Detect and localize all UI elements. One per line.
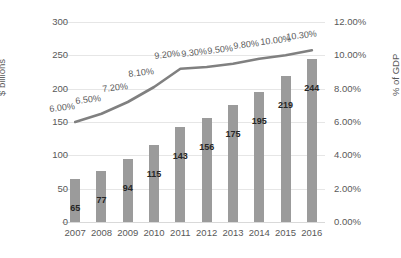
bar-2007 [70, 179, 80, 222]
y-axis-left-tick: 50 [57, 184, 68, 194]
y-axis-right-tick: 2.00% [334, 184, 361, 194]
y-axis-left-tick: 150 [52, 117, 68, 127]
bar-value-label-2010: 115 [141, 170, 167, 179]
y-axis-right-tick: 12.00% [334, 17, 366, 27]
bar-2015 [281, 76, 291, 222]
y-axis-right-tick: 10.00% [334, 50, 366, 60]
axis-baseline [62, 222, 325, 223]
bar-2011 [175, 127, 185, 222]
bar-value-label-2007: 65 [62, 204, 88, 213]
x-axis-tick-2012: 2012 [194, 228, 220, 238]
x-axis-tick-2014: 2014 [246, 228, 272, 238]
bar-2012 [202, 118, 212, 222]
x-axis-tick-2016: 2016 [299, 228, 325, 238]
bar-value-label-2013: 175 [220, 130, 246, 139]
gridline [62, 22, 325, 23]
y-axis-left-tick: 200 [52, 84, 68, 94]
y-axis-left-tick: 250 [52, 50, 68, 60]
x-axis-tick-2013: 2013 [220, 228, 246, 238]
bar-value-label-2011: 143 [167, 152, 193, 161]
x-axis-tick-2010: 2010 [141, 228, 167, 238]
y-axis-right-title: % of GDP [390, 54, 401, 96]
bar-value-label-2012: 156 [194, 143, 220, 152]
y-axis-right-tick: 0.00% [334, 217, 361, 227]
bar-2013 [228, 105, 238, 222]
bar-2010 [149, 145, 159, 222]
x-axis-tick-2009: 2009 [115, 228, 141, 238]
y-axis-left-title: $ billions [0, 59, 7, 96]
x-axis-tick-2007: 2007 [62, 228, 88, 238]
x-axis-tick-2008: 2008 [88, 228, 114, 238]
bar-value-label-2015: 219 [272, 101, 298, 110]
bar-2014 [254, 92, 264, 222]
y-axis-right-tick: 8.00% [334, 84, 361, 94]
bar-value-label-2014: 195 [246, 117, 272, 126]
y-axis-left-tick: 100 [52, 150, 68, 160]
y-axis-right-tick: 4.00% [334, 150, 361, 160]
bar-value-label-2009: 94 [115, 184, 141, 193]
x-axis-tick-2011: 2011 [167, 228, 193, 238]
y-axis-right-tick: 6.00% [334, 117, 361, 127]
x-axis-tick-2015: 2015 [272, 228, 298, 238]
bar-value-label-2008: 77 [88, 196, 114, 205]
y-axis-left-tick: 300 [52, 17, 68, 27]
y-axis-left-tick: 0 [63, 217, 68, 227]
bar-value-label-2016: 244 [299, 84, 325, 93]
